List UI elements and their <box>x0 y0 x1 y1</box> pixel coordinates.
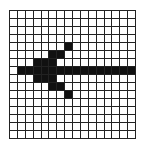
grid-cell <box>56 90 64 98</box>
grid-cell <box>88 114 96 122</box>
grid-cell <box>25 98 33 106</box>
grid-cell <box>41 50 49 58</box>
grid-cell <box>41 90 49 98</box>
grid-cell <box>17 130 25 138</box>
grid-cell <box>17 34 25 42</box>
grid-cell <box>88 18 96 26</box>
grid-cell <box>25 10 33 18</box>
grid-cell <box>48 106 56 114</box>
grid-cell <box>104 26 112 34</box>
grid-cell <box>127 74 135 82</box>
grid-cell <box>104 34 112 42</box>
grid-cell <box>96 34 104 42</box>
grid-cell-filled <box>127 66 135 74</box>
grid-cell-filled <box>104 66 112 74</box>
grid-cell <box>104 42 112 50</box>
grid-cell <box>127 122 135 130</box>
grid-cell <box>127 106 135 114</box>
grid-cell <box>64 18 72 26</box>
grid-cell <box>127 58 135 66</box>
grid-cell <box>72 114 80 122</box>
grid-cell <box>25 82 33 90</box>
grid-cell <box>80 18 88 26</box>
grid-cell <box>72 98 80 106</box>
grid-cell <box>127 42 135 50</box>
grid-cell <box>111 18 119 26</box>
grid-cell <box>17 42 25 50</box>
grid-cell <box>64 114 72 122</box>
grid-cell <box>96 130 104 138</box>
grid-cell <box>41 42 49 50</box>
grid-cell <box>88 106 96 114</box>
grid-cell <box>111 122 119 130</box>
grid-cell <box>56 114 64 122</box>
grid-cell <box>104 74 112 82</box>
grid-cell-filled <box>25 66 33 74</box>
grid-cell <box>72 50 80 58</box>
grid-cell <box>72 34 80 42</box>
grid-cell <box>48 130 56 138</box>
pixel-grid <box>9 10 136 139</box>
grid-cell <box>56 98 64 106</box>
grid-cell <box>41 34 49 42</box>
grid-cell <box>119 106 127 114</box>
grid-cell <box>33 130 41 138</box>
grid-cell <box>25 26 33 34</box>
grid-cell-filled <box>64 90 72 98</box>
grid-cell <box>64 10 72 18</box>
grid-cell <box>127 34 135 42</box>
grid-cell <box>80 114 88 122</box>
grid-cell <box>56 106 64 114</box>
grid-cell <box>56 74 64 82</box>
grid-cell <box>127 82 135 90</box>
grid-cell <box>33 114 41 122</box>
grid-cell <box>56 122 64 130</box>
grid-cell-filled <box>48 74 56 82</box>
grid-cell <box>25 114 33 122</box>
grid-cell <box>64 130 72 138</box>
grid-cell <box>25 106 33 114</box>
grid-cell <box>111 58 119 66</box>
grid-cell <box>104 50 112 58</box>
grid-cell <box>72 58 80 66</box>
grid-cell <box>80 34 88 42</box>
grid-cell <box>111 114 119 122</box>
grid-cell <box>119 18 127 26</box>
grid-cell <box>33 10 41 18</box>
grid-cell <box>111 106 119 114</box>
grid-cell-filled <box>17 66 25 74</box>
grid-cell <box>17 114 25 122</box>
grid-cell-filled <box>111 66 119 74</box>
grid-cell <box>119 130 127 138</box>
grid-cell <box>17 106 25 114</box>
grid-cell <box>25 122 33 130</box>
grid-cell <box>48 26 56 34</box>
grid-cell <box>119 122 127 130</box>
grid-cell <box>111 10 119 18</box>
grid-cell <box>80 26 88 34</box>
grid-cell <box>88 50 96 58</box>
grid-cell <box>17 98 25 106</box>
grid-cell <box>64 58 72 66</box>
grid-cell <box>17 90 25 98</box>
grid-cell <box>80 50 88 58</box>
grid-cell <box>119 90 127 98</box>
grid-cell <box>9 42 17 50</box>
grid-cell <box>48 122 56 130</box>
grid-cell <box>17 26 25 34</box>
grid-cell <box>72 74 80 82</box>
grid-cell <box>72 106 80 114</box>
grid-cell <box>104 90 112 98</box>
grid-cell <box>25 74 33 82</box>
grid-cell <box>96 82 104 90</box>
grid-cell <box>56 18 64 26</box>
grid-cell <box>80 42 88 50</box>
grid-cell <box>9 90 17 98</box>
grid-cell-filled <box>64 42 72 50</box>
grid-cell <box>111 130 119 138</box>
grid-cell <box>72 18 80 26</box>
grid-cell <box>9 114 17 122</box>
grid-cell-filled <box>48 82 56 90</box>
grid-cell <box>96 10 104 18</box>
grid-cell <box>41 106 49 114</box>
